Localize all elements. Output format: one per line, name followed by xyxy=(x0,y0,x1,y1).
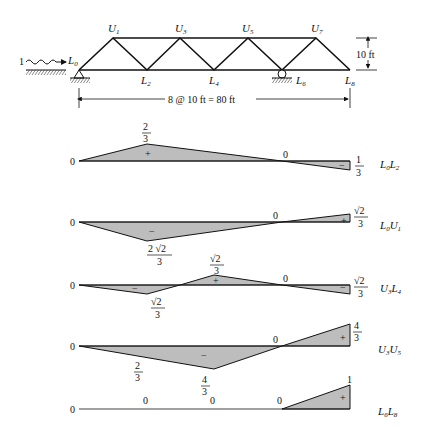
svg-text:3: 3 xyxy=(202,386,207,397)
svg-text:√2: √2 xyxy=(210,253,221,264)
svg-text:3: 3 xyxy=(157,256,162,267)
svg-text:2: 2 xyxy=(135,360,140,371)
node-L6: L6 xyxy=(295,74,306,88)
svg-text:3: 3 xyxy=(135,372,140,383)
influence-line-L6L8: 0 0 0 0 + 1 L6L8 xyxy=(70,374,398,419)
il-title-L6L8: L6L8 xyxy=(377,405,398,419)
svg-text:3: 3 xyxy=(358,288,363,299)
moving-load-icon xyxy=(26,60,66,64)
svg-text:3: 3 xyxy=(358,218,363,229)
il-title-U3U5: U3U5 xyxy=(378,343,401,357)
node-U7: U7 xyxy=(311,22,323,36)
svg-text:0: 0 xyxy=(70,341,75,352)
svg-text:−: − xyxy=(201,350,207,361)
svg-text:0: 0 xyxy=(70,404,75,415)
svg-text:−: − xyxy=(340,282,346,293)
influence-line-L0U1: 0 − 2 √2 3 0 + √2 3 L0U1 xyxy=(70,205,401,267)
svg-text:0: 0 xyxy=(277,395,282,406)
svg-text:0: 0 xyxy=(210,395,215,406)
svg-text:0: 0 xyxy=(283,273,288,284)
svg-text:−: − xyxy=(339,160,345,171)
pin-support-icon xyxy=(70,70,90,83)
influence-line-U3L4: 0 − √2 3 √2 3 + 0 − √2 3 U3L4 xyxy=(70,253,402,320)
svg-text:1: 1 xyxy=(356,154,361,165)
svg-text:√2: √2 xyxy=(354,275,365,286)
svg-text:−: − xyxy=(132,283,138,294)
il-title-U3L4: U3L4 xyxy=(380,282,402,296)
svg-text:4: 4 xyxy=(202,374,207,385)
load-label: 1 xyxy=(19,56,24,67)
svg-text:0: 0 xyxy=(70,217,75,228)
svg-text:0: 0 xyxy=(273,210,278,221)
svg-text:3: 3 xyxy=(143,133,148,144)
influence-line-L0L2: 0 2 3 + 0 − 1 3 L0L2 xyxy=(70,121,400,178)
node-L8: L8 xyxy=(344,74,355,88)
svg-text:1: 1 xyxy=(347,374,352,385)
svg-text:0: 0 xyxy=(70,280,75,291)
svg-text:3: 3 xyxy=(354,332,359,343)
node-U3: U3 xyxy=(175,22,187,36)
node-L4: L4 xyxy=(208,74,219,88)
node-U5: U5 xyxy=(242,22,254,36)
truss xyxy=(79,38,350,70)
influence-line-figure: 1 L0 U1 U3 U5 U7 L2 L4 L6 L8 10 ft 8 @ 1… xyxy=(0,0,426,440)
span-label: 8 @ 10 ft = 80 ft xyxy=(168,94,235,105)
svg-text:4: 4 xyxy=(354,320,359,331)
svg-text:2: 2 xyxy=(143,121,148,132)
svg-text:+: + xyxy=(213,275,219,286)
svg-text:3: 3 xyxy=(356,167,361,178)
svg-text:+: + xyxy=(340,392,346,403)
node-L2: L2 xyxy=(140,74,151,88)
svg-text:−: − xyxy=(149,226,155,237)
web-members xyxy=(79,38,350,70)
svg-text:+: + xyxy=(340,332,346,343)
roller-support-icon xyxy=(272,70,292,83)
svg-text:+: + xyxy=(145,148,151,159)
height-label: 10 ft xyxy=(356,49,375,60)
svg-text:√2: √2 xyxy=(151,296,162,307)
node-labels: L0 U1 U3 U5 U7 L2 L4 L6 L8 xyxy=(67,22,355,88)
svg-text:2 √2: 2 √2 xyxy=(148,243,166,254)
node-U1: U1 xyxy=(108,22,119,36)
svg-text:+: + xyxy=(341,215,347,226)
svg-text:0: 0 xyxy=(283,149,288,160)
svg-text:0: 0 xyxy=(70,156,75,167)
ground-hatch-icon xyxy=(26,70,66,75)
il-title-L0U1: L0U1 xyxy=(379,219,401,233)
svg-text:√2: √2 xyxy=(354,205,365,216)
node-L0: L0 xyxy=(67,54,78,68)
svg-text:0: 0 xyxy=(273,334,278,345)
il-title-L0L2: L0L2 xyxy=(379,158,400,172)
influence-line-U3U5: 0 2 3 4 3 − 0 + 4 3 U3U5 xyxy=(70,320,401,397)
svg-text:0: 0 xyxy=(143,395,148,406)
svg-text:3: 3 xyxy=(155,309,160,320)
